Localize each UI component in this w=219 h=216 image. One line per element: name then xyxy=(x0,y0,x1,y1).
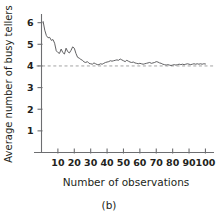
series-line-busy-tellers xyxy=(43,22,205,66)
figure-caption: (b) xyxy=(102,199,117,211)
y-tick-label-5: 5 xyxy=(27,39,34,50)
x-tick-label-20: 20 xyxy=(68,157,82,168)
x-tick-label-10: 10 xyxy=(51,157,65,168)
y-axis-title: Average number of busy tellers xyxy=(3,5,14,162)
x-tick-labels: 102030405060708090100 xyxy=(51,157,215,168)
x-tick-label-30: 30 xyxy=(84,157,98,168)
x-tick-label-70: 70 xyxy=(150,157,164,168)
chart-canvas: 123456 102030405060708090100 Average num… xyxy=(0,0,219,216)
y-tick-label-6: 6 xyxy=(27,17,34,28)
x-tick-label-80: 80 xyxy=(166,157,180,168)
y-tick-label-3: 3 xyxy=(27,82,34,93)
x-tick-label-50: 50 xyxy=(117,157,131,168)
x-tick-label-60: 60 xyxy=(133,157,147,168)
y-tick-label-4: 4 xyxy=(27,60,34,71)
x-tick-label-90: 90 xyxy=(182,157,196,168)
x-axis-title: Number of observations xyxy=(63,176,190,188)
figure-container: 123456 102030405060708090100 Average num… xyxy=(0,0,219,216)
y-tick-label-1: 1 xyxy=(27,125,34,136)
y-tick-labels: 123456 xyxy=(27,17,34,136)
data-series-group xyxy=(43,22,205,66)
axes xyxy=(34,14,214,153)
y-tick-label-2: 2 xyxy=(27,104,34,115)
x-tick-label-40: 40 xyxy=(100,157,114,168)
x-tick-label-100: 100 xyxy=(196,157,216,168)
